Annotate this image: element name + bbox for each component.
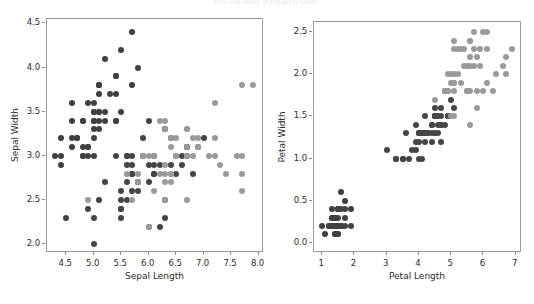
data-point bbox=[484, 46, 490, 52]
x-axis-label: Petal Length bbox=[389, 271, 445, 281]
data-point bbox=[432, 105, 438, 111]
data-point bbox=[332, 215, 338, 221]
data-point bbox=[419, 156, 425, 162]
data-point bbox=[442, 122, 448, 128]
x-tickmark bbox=[386, 252, 387, 255]
data-point bbox=[384, 147, 390, 153]
data-point bbox=[493, 71, 499, 77]
y-tickmark bbox=[309, 115, 312, 116]
data-point bbox=[438, 113, 444, 119]
data-point bbox=[348, 206, 354, 212]
data-point bbox=[435, 130, 441, 136]
data-point bbox=[448, 97, 454, 103]
data-point bbox=[422, 139, 428, 145]
data-point bbox=[467, 54, 473, 60]
data-point bbox=[461, 46, 467, 52]
data-point bbox=[503, 71, 509, 77]
data-point bbox=[467, 122, 473, 128]
figure-canvas: Iris Dataset (cropped title) 4.55.05.56.… bbox=[0, 0, 534, 304]
data-point bbox=[500, 63, 506, 69]
data-point bbox=[451, 113, 457, 119]
scatter-panel-right: 12345670.00.51.01.52.02.5Petal LengthPet… bbox=[0, 0, 534, 304]
data-point bbox=[322, 231, 328, 237]
y-tick-label: 0.0 bbox=[283, 237, 307, 247]
data-point bbox=[455, 46, 461, 52]
y-tick-label: 0.5 bbox=[283, 195, 307, 205]
data-point bbox=[393, 156, 399, 162]
data-point bbox=[422, 113, 428, 119]
data-point bbox=[329, 206, 335, 212]
x-tick-label: 3 bbox=[383, 258, 388, 268]
data-point bbox=[461, 63, 467, 69]
data-point bbox=[455, 71, 461, 77]
data-point bbox=[480, 88, 486, 94]
y-tickmark bbox=[309, 73, 312, 74]
data-point bbox=[413, 122, 419, 128]
data-point bbox=[438, 105, 444, 111]
x-tick-label: 1 bbox=[318, 258, 323, 268]
data-point bbox=[338, 189, 344, 195]
x-tickmark bbox=[321, 252, 322, 255]
data-point bbox=[429, 139, 435, 145]
data-point bbox=[477, 46, 483, 52]
data-point bbox=[509, 46, 515, 52]
x-tickmark bbox=[482, 252, 483, 255]
data-point bbox=[342, 215, 348, 221]
data-point bbox=[348, 223, 354, 229]
data-point bbox=[503, 54, 509, 60]
data-point bbox=[416, 139, 422, 145]
x-tick-label: 5 bbox=[447, 258, 452, 268]
data-point bbox=[471, 46, 477, 52]
x-tickmark bbox=[450, 252, 451, 255]
x-tick-label: 7 bbox=[512, 258, 517, 268]
data-point bbox=[435, 122, 441, 128]
y-tickmark bbox=[309, 242, 312, 243]
x-tickmark bbox=[418, 252, 419, 255]
y-tickmark bbox=[309, 31, 312, 32]
data-point bbox=[474, 54, 480, 60]
data-point bbox=[477, 63, 483, 69]
x-tick-label: 4 bbox=[415, 258, 420, 268]
x-tick-label: 2 bbox=[351, 258, 356, 268]
y-tick-label: 2.0 bbox=[283, 68, 307, 78]
data-point bbox=[438, 139, 444, 145]
y-tick-label: 2.5 bbox=[283, 26, 307, 36]
data-point bbox=[451, 105, 457, 111]
data-point bbox=[484, 80, 490, 86]
x-tick-label: 6 bbox=[480, 258, 485, 268]
data-point bbox=[451, 38, 457, 44]
data-point bbox=[442, 88, 448, 94]
data-point bbox=[451, 88, 457, 94]
data-point bbox=[484, 29, 490, 35]
data-point bbox=[474, 105, 480, 111]
data-point bbox=[403, 130, 409, 136]
x-tickmark bbox=[515, 252, 516, 255]
data-point bbox=[467, 38, 473, 44]
y-tickmark bbox=[309, 200, 312, 201]
y-tickmark bbox=[309, 158, 312, 159]
data-point bbox=[474, 88, 480, 94]
x-tickmark bbox=[353, 252, 354, 255]
data-point bbox=[429, 122, 435, 128]
data-point bbox=[458, 80, 464, 86]
plot-area bbox=[313, 21, 521, 252]
data-point bbox=[406, 156, 412, 162]
data-point bbox=[432, 97, 438, 103]
data-point bbox=[490, 88, 496, 94]
y-axis-label: Petal Width bbox=[277, 111, 287, 162]
data-point bbox=[448, 80, 454, 86]
data-point bbox=[400, 156, 406, 162]
data-point bbox=[332, 223, 338, 229]
data-point bbox=[471, 29, 477, 35]
data-point bbox=[319, 223, 325, 229]
data-point bbox=[342, 198, 348, 204]
